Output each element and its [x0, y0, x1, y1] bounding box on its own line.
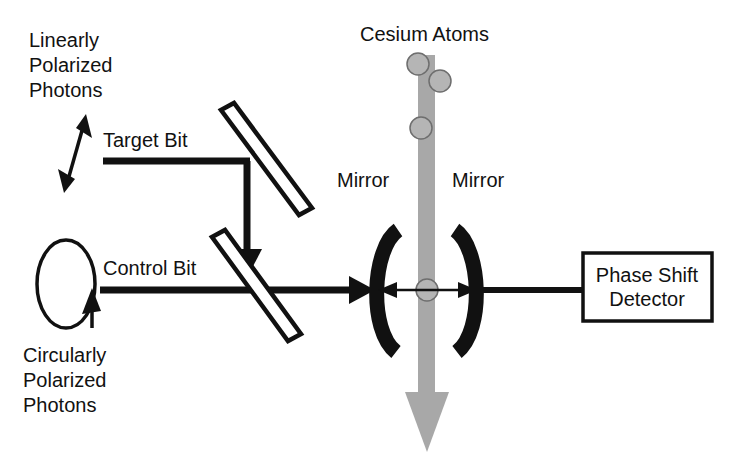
atom-circle: [429, 70, 451, 92]
polarization-arrow-head-up: [76, 114, 92, 138]
phase-shift-detector-box[interactable]: [583, 253, 712, 321]
circularly-polarized-line1: Circularly: [23, 344, 106, 366]
circularly-polarized-label-group: Circularly Polarized Photons: [23, 344, 106, 416]
linearly-polarized-label-group: Linearly Polarized Photons: [29, 29, 112, 101]
cesium-beam-arrowhead: [405, 392, 449, 452]
circular-polarization-loop: [37, 240, 101, 328]
circularly-polarized-line2: Polarized: [23, 369, 106, 391]
cesium-beam-shaft: [418, 55, 435, 395]
cesium-atoms-label: Cesium Atoms: [360, 23, 489, 45]
atom-circle: [407, 53, 429, 75]
circular-polarization-arrow-head: [82, 288, 101, 314]
linear-polarization-arrow: [58, 114, 92, 193]
linearly-polarized-line1: Linearly: [29, 29, 99, 51]
phase-shift-detector[interactable]: Phase Shift Detector: [583, 253, 712, 321]
circularly-polarized-line3: Photons: [23, 394, 96, 416]
atom-circle: [410, 117, 432, 139]
beam-splitter-lower: [212, 230, 301, 341]
mirror-left-label: Mirror: [337, 169, 390, 191]
linearly-polarized-line2: Polarized: [29, 54, 112, 76]
quantum-logic-gate-diagram: Cesium Atoms Linearly Polarized Photons …: [0, 0, 740, 472]
cesium-atom-beam: [405, 55, 449, 452]
control-bit-beam-path: [100, 276, 375, 304]
linearly-polarized-line3: Photons: [29, 79, 102, 101]
optics-schematic: Cesium Atoms Linearly Polarized Photons …: [0, 0, 740, 472]
target-bit-label: Target Bit: [103, 129, 188, 151]
circular-polarization-ellipse: [37, 240, 95, 328]
control-bit-label: Control Bit: [103, 257, 197, 279]
phase-shift-detector-line2: Detector: [609, 288, 685, 310]
polarization-arrow-head-down: [58, 169, 75, 193]
beam-splitter-lower-plate: [212, 230, 301, 341]
phase-shift-detector-line1: Phase Shift: [596, 264, 699, 286]
mirror-right-label: Mirror: [452, 169, 505, 191]
